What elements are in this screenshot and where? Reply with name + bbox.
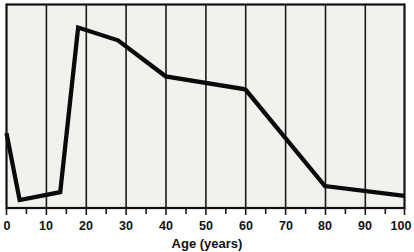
x-tick-label-70: 70	[279, 219, 293, 233]
x-tick-label-30: 30	[119, 219, 133, 233]
x-tick-label-60: 60	[239, 219, 253, 233]
x-tick-label-0: 0	[4, 219, 11, 233]
axis-tickmarks-group	[7, 208, 405, 215]
x-tick-label-80: 80	[318, 219, 332, 233]
line-chart: 0 10 20 30 40 50 60 70 80 90 100 Age (ye…	[0, 0, 414, 252]
x-tick-label-90: 90	[358, 219, 372, 233]
x-axis-title: Age (years)	[172, 236, 243, 251]
x-tick-label-40: 40	[159, 219, 173, 233]
x-tick-label-100: 100	[391, 219, 412, 233]
chart-container: 0 10 20 30 40 50 60 70 80 90 100 Age (ye…	[0, 0, 414, 252]
x-tick-label-10: 10	[39, 219, 53, 233]
x-tick-label-50: 50	[199, 219, 213, 233]
x-axis-tick-labels: 0 10 20 30 40 50 60 70 80 90 100	[4, 219, 412, 233]
x-tick-label-20: 20	[79, 219, 93, 233]
